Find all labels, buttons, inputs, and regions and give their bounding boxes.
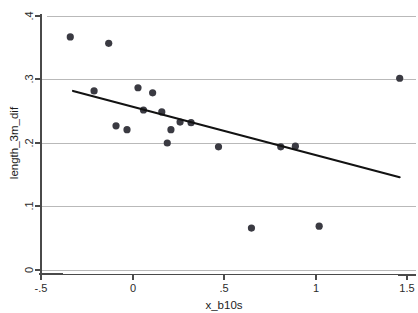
y-tick-label-4: .4 [23, 11, 35, 20]
x-tick-label-2: .5 [219, 282, 228, 294]
y-axis-title: length_3m_dif [8, 106, 20, 179]
y-tick-label-0: 0 [23, 267, 35, 273]
y-tick-label-3: .3 [23, 74, 35, 83]
data-point [149, 89, 156, 96]
scatter-plot-figure: .4 .3 .2 .1 0 length_3m_dif -.5 0 .5 1 1… [0, 0, 418, 313]
data-point [396, 75, 403, 82]
gridline-y-0.0 [41, 270, 416, 271]
x-axis-title: x_b10s [205, 299, 242, 311]
gridline-y-0.3 [41, 79, 416, 80]
x-axis-line [39, 274, 416, 275]
data-point [215, 143, 222, 150]
data-point [164, 139, 171, 146]
data-point [123, 126, 130, 133]
fit-line-segment [73, 91, 400, 177]
plot-canvas: .4 .3 .2 .1 0 length_3m_dif -.5 0 .5 1 1… [0, 0, 418, 313]
data-point [90, 87, 97, 94]
y-tick-label-2: .2 [23, 138, 35, 147]
scatter-series [67, 33, 404, 231]
gridline-y-0.1 [41, 206, 416, 207]
x-tick-label-0: -.5 [35, 282, 48, 294]
y-tick-label-1: .1 [23, 201, 35, 210]
x-tick-label-1: 0 [130, 282, 136, 294]
x-axis: -.5 0 .5 1 1.5 x_b10s [35, 274, 416, 311]
gridlines-group [41, 16, 416, 271]
data-point [105, 40, 112, 47]
data-point [112, 122, 119, 129]
data-point [134, 84, 141, 91]
x-tick-label-4: 1.5 [399, 282, 414, 294]
data-point [67, 33, 74, 40]
gridline-y-0.2 [41, 143, 416, 144]
regression-fit-line [73, 91, 400, 177]
data-point [167, 126, 174, 133]
y-axis: .4 .3 .2 .1 0 length_3m_dif [8, 11, 41, 273]
gridline-y-0.4 [41, 16, 416, 17]
x-tick-label-3: 1 [313, 282, 319, 294]
data-point [316, 223, 323, 230]
data-point [248, 224, 255, 231]
